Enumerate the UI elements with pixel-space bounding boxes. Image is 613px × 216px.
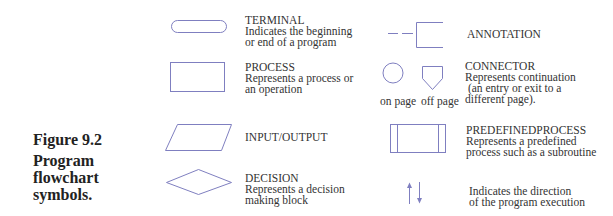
input-output-symbol bbox=[166, 125, 232, 151]
terminal-symbol bbox=[172, 21, 227, 33]
description-line: an operation bbox=[245, 84, 353, 95]
off-page-connector-symbol bbox=[423, 67, 443, 90]
description-line: of the program execution bbox=[469, 197, 585, 208]
predefined-process-symbol bbox=[391, 125, 446, 153]
connector-description: CONNECTOR Represents continuation (an en… bbox=[465, 61, 576, 105]
decision-symbol bbox=[167, 170, 232, 195]
off-page-label: off page bbox=[421, 96, 459, 107]
process-description: PROCESS Represents a process or an opera… bbox=[245, 62, 353, 95]
terminal-description: TERMINAL Indicates the beginning or end … bbox=[245, 15, 352, 48]
caption-line: symbols. bbox=[33, 186, 99, 203]
description-line: different page). bbox=[465, 94, 576, 105]
flow-direction-arrows bbox=[407, 182, 422, 204]
figure-caption: Program flowchart symbols. bbox=[33, 152, 99, 203]
annotation-title: ANNOTATION bbox=[467, 29, 541, 40]
process-symbol bbox=[171, 63, 225, 92]
decision-description: DECISION Represents a decision making bl… bbox=[245, 173, 345, 206]
description-line: making block bbox=[245, 195, 345, 206]
input-output-title: INPUT/OUTPUT bbox=[245, 132, 327, 143]
annotation-description: ANNOTATION bbox=[467, 29, 541, 40]
on-page-label: on page bbox=[380, 96, 416, 107]
on-page-connector-symbol bbox=[383, 63, 403, 83]
description-line: process such as a subroutine bbox=[466, 147, 596, 158]
input-output-description: INPUT/OUTPUT bbox=[245, 132, 327, 143]
annotation-symbol bbox=[388, 23, 443, 48]
predefined-process-description: PREDEFINEDPROCESS Represents a predefine… bbox=[466, 125, 596, 158]
figure-number: Figure 9.2 bbox=[33, 131, 102, 148]
caption-line: flowchart bbox=[33, 169, 99, 186]
caption-line: Program bbox=[33, 152, 99, 169]
description-line: or end of a program bbox=[245, 37, 352, 48]
flow-lines-description: Indicates the direction of the program e… bbox=[469, 186, 585, 208]
